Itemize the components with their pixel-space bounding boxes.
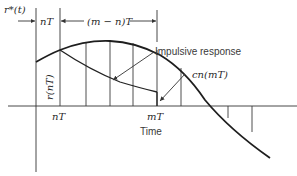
x-axis-label: Time <box>140 126 162 137</box>
y-axis-label: r*(t) <box>4 4 26 15</box>
impulse-response-diagram: r*(t) nT (m − n)T Impulsive response cn(… <box>0 0 297 176</box>
cn-mT-label: cn(mT) <box>192 69 228 80</box>
impulsive-response-curve <box>60 50 157 92</box>
nT-dimension-label: nT <box>40 16 54 27</box>
mT-tick-label: mT <box>147 111 164 122</box>
impulsive-response-leader <box>113 52 154 80</box>
mn-dimension-label: (m − n)T <box>87 16 133 27</box>
impulsive-response-label: Impulsive response <box>155 46 242 57</box>
nT-tick-label: nT <box>52 111 66 122</box>
r-nT-label: r(nT) <box>44 74 55 100</box>
input-signal-curve <box>36 41 270 158</box>
